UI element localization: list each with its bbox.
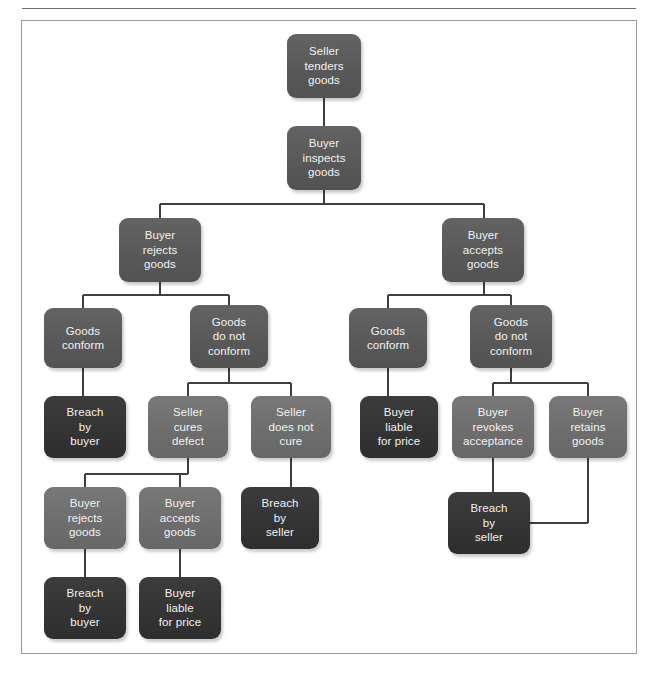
- flow-node-n10: Seller cures defect: [148, 396, 228, 458]
- flow-node-n14: Buyer retains goods: [549, 396, 627, 458]
- flow-node-n8: Goods do not conform: [470, 305, 552, 368]
- flow-node-n15: Buyer rejects goods: [44, 487, 126, 549]
- flow-node-n18: Breach by seller: [448, 492, 530, 554]
- flow-node-n4: Buyer accepts goods: [442, 218, 524, 282]
- flow-node-n1: Seller tenders goods: [287, 34, 361, 98]
- flow-node-n13: Buyer revokes acceptance: [452, 396, 534, 458]
- flow-node-n11: Seller does not cure: [251, 396, 331, 458]
- flow-node-n2: Buyer inspects goods: [287, 126, 361, 190]
- flow-node-n9: Breach by buyer: [44, 396, 126, 458]
- flow-node-n7: Goods conform: [349, 308, 427, 368]
- flow-node-n3: Buyer rejects goods: [119, 218, 201, 282]
- figure-page: Seller tenders goodsBuyer inspects goods…: [0, 0, 658, 676]
- node-layer: Seller tenders goodsBuyer inspects goods…: [0, 0, 658, 676]
- flow-node-n19: Breach by buyer: [44, 577, 126, 639]
- flow-node-n6: Goods do not conform: [190, 305, 268, 368]
- flow-node-n16: Buyer accepts goods: [139, 487, 221, 549]
- flow-node-n20: Buyer liable for price: [139, 577, 221, 639]
- flow-node-n5: Goods conform: [44, 308, 122, 368]
- flow-node-n12: Buyer liable for price: [360, 396, 438, 458]
- flow-node-n17: Breach by seller: [241, 487, 319, 549]
